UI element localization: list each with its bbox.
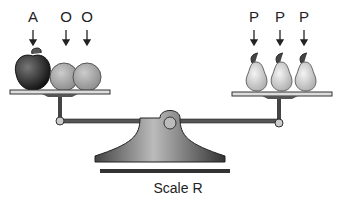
orange-icon (73, 63, 101, 91)
balance-scale-illustration (0, 0, 347, 204)
center-pivot (164, 117, 176, 129)
label-orange: O (77, 8, 97, 25)
pear-icon (246, 53, 267, 91)
label-apple: A (23, 8, 43, 25)
pivot-left (56, 117, 64, 125)
apple-icon (15, 48, 50, 90)
pivot-right (275, 119, 283, 127)
label-pear: P (244, 8, 264, 25)
label-pear: P (270, 8, 290, 25)
label-orange: O (56, 8, 76, 25)
scale-caption: Scale R (143, 180, 213, 196)
pear-icon (271, 53, 292, 91)
right-pan (232, 92, 332, 122)
arrow-icon (30, 30, 307, 45)
left-pan (10, 90, 110, 121)
label-pear: P (294, 8, 314, 25)
pear-icon (295, 53, 316, 91)
scale-base (95, 111, 225, 163)
